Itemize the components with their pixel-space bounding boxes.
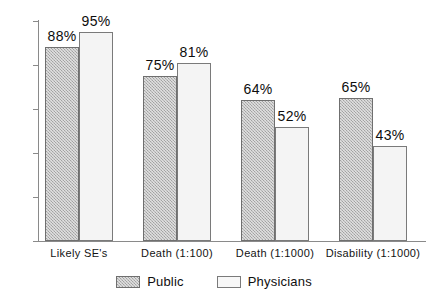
bar-physicians-0 xyxy=(79,32,113,241)
bar-physicians-1 xyxy=(177,63,211,241)
bar-value-label: 65% xyxy=(342,79,371,95)
bar-physicians-3 xyxy=(373,146,407,241)
bar-value-label: 64% xyxy=(244,81,273,97)
white-swatch xyxy=(217,276,241,288)
bar-public-2 xyxy=(241,100,275,241)
legend-item-physicians[interactable]: Physicians xyxy=(217,274,312,289)
chart-legend: PublicPhysicians xyxy=(0,274,428,289)
bars-layer: 88%95%75%81%64%52%65%43% xyxy=(39,21,424,241)
bar-value-label: 81% xyxy=(180,44,209,60)
x-axis-line xyxy=(38,241,426,242)
bar-public-3 xyxy=(339,98,373,241)
category-label-2: Death (1:1000) xyxy=(236,247,314,259)
y-axis-tick xyxy=(33,241,39,242)
bar-value-label: 95% xyxy=(82,13,111,29)
category-label-3: Disability (1:1000) xyxy=(326,247,421,259)
bar-value-label: 43% xyxy=(376,127,405,143)
bar-physicians-2 xyxy=(275,127,309,241)
bar-value-label: 75% xyxy=(146,57,175,73)
bar-public-1 xyxy=(143,76,177,241)
bar-value-label: 88% xyxy=(48,28,77,44)
legend-label: Physicians xyxy=(248,274,312,289)
bar-chart: 020406080100 88%95%75%81%64%52%65%43% Li… xyxy=(0,0,428,301)
category-label-0: Likely SE's xyxy=(50,247,107,259)
legend-label: Public xyxy=(147,274,184,289)
bar-value-label: 52% xyxy=(278,108,307,124)
hatched-gray-swatch xyxy=(116,276,140,288)
category-label-1: Death (1:100) xyxy=(141,247,213,259)
legend-item-public[interactable]: Public xyxy=(116,274,184,289)
bar-public-0 xyxy=(45,47,79,241)
